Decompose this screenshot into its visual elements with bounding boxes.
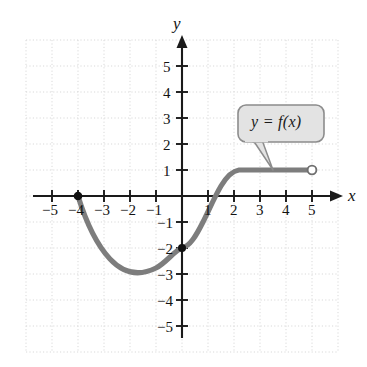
graph-figure: −5 −4 −3 −2 −1 1 2 3 4 5 5 4 3 2 1 −1 −2… <box>0 0 367 367</box>
y-tick-label--2: −2 <box>157 242 173 257</box>
callout-label: y = f(x) <box>251 114 302 130</box>
y-tick-label-4: 4 <box>163 86 171 101</box>
x-tick-label-4: 4 <box>282 203 290 218</box>
y-tick-label-5: 5 <box>163 60 171 75</box>
x-tick-label-1: 1 <box>204 203 212 218</box>
x-axis-label: x <box>348 187 356 204</box>
x-tick-label--4: −4 <box>68 203 84 218</box>
function-curve <box>78 170 312 273</box>
y-tick-label-1: 1 <box>163 164 171 179</box>
x-tick-label-3: 3 <box>256 203 264 218</box>
y-axis-arrowhead <box>177 35 188 48</box>
x-tick-label-2: 2 <box>230 203 238 218</box>
open-endpoint-marker <box>308 166 317 175</box>
x-tick-label--2: −2 <box>120 203 136 218</box>
y-tick-label--4: −4 <box>157 294 173 309</box>
y-tick-label-3: 3 <box>163 112 171 127</box>
y-tick-label--3: −3 <box>157 268 173 283</box>
x-tick-label--5: −5 <box>42 203 58 218</box>
x-tick-label--3: −3 <box>94 203 110 218</box>
y-tick-label--5: −5 <box>157 320 173 335</box>
x-tick-label-5: 5 <box>308 203 316 218</box>
coordinate-plane-svg <box>0 0 367 367</box>
closed-endpoint-marker <box>74 192 83 201</box>
y-tick-label--1: −1 <box>157 216 173 231</box>
callout-tail <box>250 140 273 170</box>
closed-point-marker-y-intercept <box>178 244 186 252</box>
y-tick-label-2: 2 <box>163 138 171 153</box>
y-axis-label: y <box>173 15 181 32</box>
x-axis-arrowhead <box>330 191 343 202</box>
